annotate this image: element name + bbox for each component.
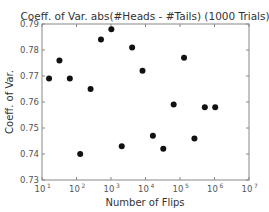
x-tick-label: 10 <box>242 184 253 194</box>
scatter-chart: Coeff. of Var. abs(#Heads - #Tails) (100… <box>0 0 269 212</box>
x-tick-label: 10 <box>173 184 184 194</box>
data-point <box>77 151 83 157</box>
data-point <box>88 86 94 92</box>
x-tick-label: 10 <box>69 184 80 194</box>
svg-text:4: 4 <box>151 182 155 189</box>
data-point <box>212 104 218 110</box>
x-tick-label: 10 <box>104 184 115 194</box>
x-axis-ticks: 101102103104105106107 <box>35 24 258 194</box>
data-point <box>202 104 208 110</box>
data-point <box>191 135 197 141</box>
plot-area <box>42 24 249 180</box>
y-tick-label: 0.74 <box>20 149 39 159</box>
data-point <box>140 68 146 74</box>
data-point <box>46 76 52 82</box>
data-point <box>56 57 62 63</box>
data-points <box>46 26 218 157</box>
x-tick-label: 10 <box>138 184 149 194</box>
data-point <box>129 44 135 50</box>
y-axis-label: Coeff. of Var. <box>4 70 15 134</box>
y-axis-ticks: 0.730.740.750.760.770.780.79 <box>20 19 249 185</box>
data-point <box>150 133 156 139</box>
y-tick-label: 0.75 <box>20 123 39 133</box>
svg-text:1: 1 <box>47 182 51 189</box>
svg-text:3: 3 <box>116 182 120 189</box>
data-point <box>160 146 166 152</box>
x-axis-label: Number of Flips <box>105 197 184 208</box>
y-tick-label: 0.77 <box>20 71 39 81</box>
y-tick-label: 0.76 <box>20 97 39 107</box>
data-point <box>98 37 104 43</box>
svg-text:2: 2 <box>82 182 86 189</box>
y-tick-label: 0.79 <box>20 19 39 29</box>
data-point <box>119 143 125 149</box>
data-point <box>108 26 114 32</box>
x-tick-label: 10 <box>35 184 46 194</box>
svg-text:5: 5 <box>185 182 189 189</box>
data-point <box>171 102 177 108</box>
x-tick-label: 10 <box>207 184 218 194</box>
svg-text:7: 7 <box>254 182 258 189</box>
data-point <box>67 76 73 82</box>
svg-text:6: 6 <box>220 182 224 189</box>
data-point <box>181 55 187 61</box>
y-tick-label: 0.78 <box>20 45 39 55</box>
chart-title: Coeff. of Var. abs(#Heads - #Tails) (100… <box>20 10 269 22</box>
